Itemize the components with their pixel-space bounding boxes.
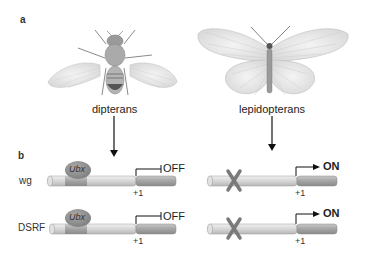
dsrf-lepidopteran-gene	[208, 211, 338, 238]
tss-label: +1	[133, 236, 143, 246]
gene-label-dsrf: DSRF	[18, 222, 45, 233]
tss-label: +1	[295, 236, 305, 246]
state-off-dsrf: OFF	[163, 211, 185, 222]
state-off-wg: OFF	[163, 163, 185, 174]
fly-icon	[48, 30, 177, 95]
wg-dipteran-gene	[48, 161, 177, 186]
lepidopterans-label: lepidopterans	[239, 103, 305, 115]
state-on-wg: ON	[323, 161, 340, 172]
tss-label: +1	[295, 188, 305, 198]
panel-a-label: a	[20, 14, 26, 25]
butterfly-icon	[198, 26, 348, 95]
panel-b-label: b	[18, 150, 24, 161]
wg-lepidopteran-gene	[208, 164, 338, 190]
tss-label: +1	[133, 188, 143, 198]
gene-label-wg: wg	[19, 175, 32, 186]
state-on-dsrf: ON	[323, 208, 340, 219]
ubx-label: Ubx	[69, 164, 85, 174]
dipterans-label: dipterans	[92, 103, 137, 115]
ubx-label: Ubx	[69, 212, 85, 222]
